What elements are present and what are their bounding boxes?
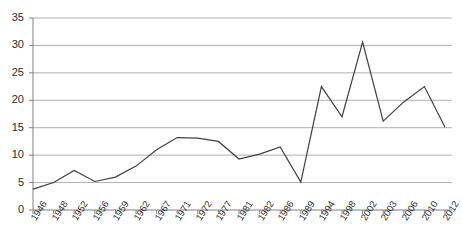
y-tick-label: 5 — [2, 177, 24, 188]
y-tick-label: 30 — [2, 39, 24, 50]
line-chart: 05101520253035 1946194819521956195919621… — [0, 0, 462, 246]
data-series-line — [33, 42, 445, 189]
y-tick-label: 0 — [2, 204, 24, 215]
axes-group — [29, 18, 452, 210]
y-tick-label: 20 — [2, 94, 24, 105]
y-tick-label: 35 — [2, 12, 24, 23]
y-tick-label: 10 — [2, 149, 24, 160]
y-tick-label: 15 — [2, 122, 24, 133]
y-tick-label: 25 — [2, 67, 24, 78]
